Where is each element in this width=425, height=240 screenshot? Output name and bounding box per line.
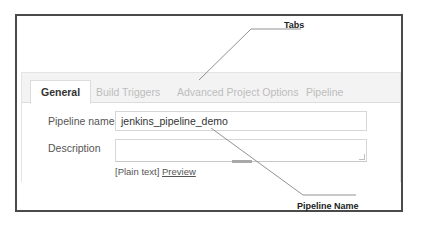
resize-corner-icon (359, 154, 365, 160)
textarea-resize-handle[interactable] (232, 160, 252, 163)
pipeline-name-input[interactable]: jenkins_pipeline_demo (115, 111, 367, 131)
callout-tabs-label: Tabs (284, 20, 304, 30)
tab-pipeline[interactable]: Pipeline (306, 81, 343, 103)
preview-link[interactable]: Preview (162, 166, 196, 177)
description-label: Description (48, 142, 101, 154)
tab-build-triggers[interactable]: Build Triggers (96, 81, 160, 103)
description-help: [Plain text] Preview (115, 166, 196, 177)
plain-text-indicator: [Plain text] (115, 166, 159, 177)
description-textarea[interactable] (115, 139, 367, 162)
config-tab-bar: General Build Triggers Advanced Project … (22, 73, 400, 103)
pipeline-name-label: Pipeline name (48, 115, 115, 127)
tab-advanced-project-options[interactable]: Advanced Project Options (177, 81, 298, 103)
tab-general[interactable]: General (30, 80, 91, 104)
callout-pipeline-name-label: Pipeline Name (297, 201, 359, 211)
